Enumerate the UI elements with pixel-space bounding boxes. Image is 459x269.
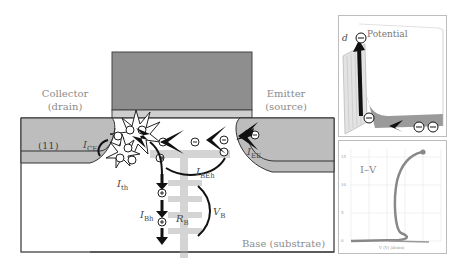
iv-xlabel: V (V) (drain) bbox=[379, 245, 404, 250]
gate-electrode bbox=[112, 52, 252, 110]
emitter-label: Emitter(source) bbox=[256, 87, 316, 113]
potential-panel: Potential d bbox=[338, 15, 447, 137]
potential-axis-d: d bbox=[342, 33, 348, 43]
gate-oxide bbox=[112, 110, 252, 118]
collector-diffusion bbox=[21, 118, 115, 163]
label-iee: IEE bbox=[247, 146, 261, 160]
label-ibh: IBh bbox=[140, 209, 154, 223]
label-rb: RB bbox=[176, 213, 189, 227]
iv-panel: I–V 15 10 5 0 V (V) (drain) bbox=[338, 140, 447, 254]
collector-label: Collector(drain) bbox=[35, 87, 95, 113]
potential-title: Potential bbox=[367, 28, 408, 41]
label-ice: ICE bbox=[83, 139, 97, 153]
base-label: Base (substrate) bbox=[242, 237, 325, 250]
iv-title: I–V bbox=[360, 163, 376, 176]
label-ith: Ith bbox=[117, 178, 128, 192]
region-number: (11) bbox=[38, 139, 59, 152]
label-ibeh: IBEh bbox=[196, 166, 215, 180]
label-vb: VB bbox=[213, 206, 225, 220]
